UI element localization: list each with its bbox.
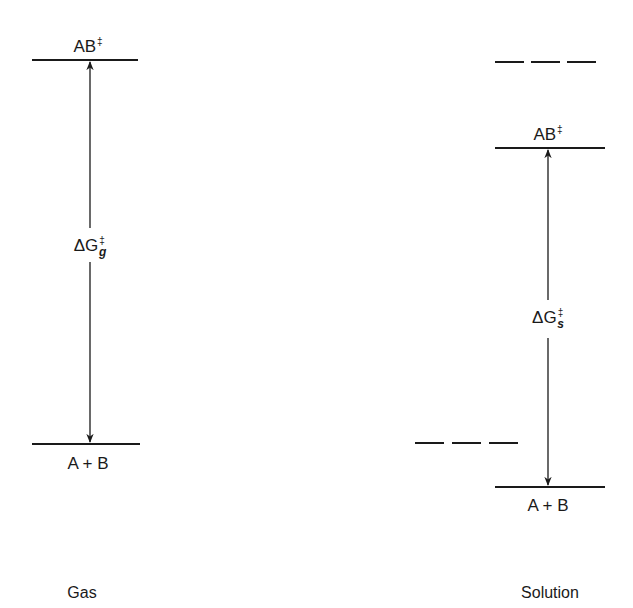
label-base: AB (73, 37, 96, 56)
solution-transition-state-label: AB‡ (533, 125, 562, 143)
solution-activation-energy-label: ΔG‡s (530, 308, 566, 326)
solution-reactants-label: A + B (527, 497, 568, 514)
energy-diagram-canvas (0, 0, 633, 608)
gas-activation-energy-label: ΔG‡g (72, 236, 109, 254)
label-base: AB (533, 125, 556, 144)
label-base: ΔG (532, 308, 557, 327)
label-base: ΔG (74, 236, 99, 255)
solution-panel (415, 62, 605, 487)
phase-subscript: s (557, 317, 564, 331)
gas-transition-state-label: AB‡ (73, 37, 102, 55)
solution-caption: Solution (521, 585, 579, 601)
gas-caption: Gas (67, 585, 96, 601)
gas-reactants-label: A + B (67, 455, 108, 472)
double-dagger-superscript: ‡ (557, 124, 563, 135)
double-dagger-superscript: ‡ (97, 36, 103, 47)
phase-subscript: g (99, 245, 106, 259)
